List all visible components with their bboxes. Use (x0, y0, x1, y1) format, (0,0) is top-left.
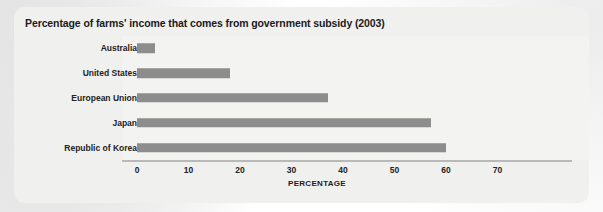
x-tick-0: 0 (135, 165, 140, 175)
category-label-japan: Japan (112, 118, 137, 128)
chart-row: European Union (14, 86, 589, 111)
x-tick-50: 50 (390, 165, 399, 175)
category-label-republic-of-korea: Republic of Korea (64, 143, 137, 153)
chart-row: Republic of Korea (14, 135, 589, 160)
x-tick-40: 40 (338, 165, 347, 175)
chart-row: Australia (14, 36, 589, 61)
bar-australia (137, 44, 155, 54)
bar-republic-of-korea (137, 143, 446, 153)
x-tick-30: 30 (287, 165, 296, 175)
bar-european-union (137, 93, 328, 103)
category-label-european-union: European Union (71, 93, 137, 103)
category-label-united-states: United States (83, 68, 137, 78)
x-tick-70: 70 (493, 165, 502, 175)
chart-row: Japan (14, 110, 589, 135)
x-tick-60: 60 (441, 165, 450, 175)
chart-row: United States (14, 61, 589, 86)
x-tick-10: 10 (184, 165, 193, 175)
x-axis-title: PERCENTAGE (137, 179, 497, 188)
x-tick-20: 20 (235, 165, 244, 175)
plot-area: Australia United States European Union J… (14, 36, 589, 160)
bar-japan (137, 118, 431, 128)
chart-title: Percentage of farms' income that comes f… (25, 17, 385, 29)
x-axis-line (122, 160, 572, 162)
bar-united-states (137, 68, 230, 78)
category-label-australia: Australia (101, 43, 137, 53)
chart-panel: Percentage of farms' income that comes f… (14, 7, 589, 203)
